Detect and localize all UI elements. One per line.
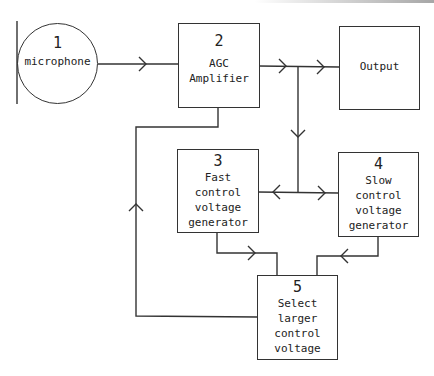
wire-branch-horizontal <box>258 192 338 193</box>
node-label: voltage <box>258 341 337 356</box>
node-microphone: 1 microphone <box>17 23 98 104</box>
node-label: Slow <box>339 173 418 188</box>
node-label: Output <box>340 59 419 74</box>
node-output: Output <box>339 26 420 110</box>
node-fast-control-voltage-generator: 3 Fast control voltage generator <box>177 149 259 233</box>
node-label: generator <box>178 215 258 230</box>
node-label: generator <box>339 218 418 233</box>
node-number: 1 <box>18 34 97 52</box>
node-label: larger <box>258 311 337 326</box>
node-label: Amplifier <box>179 71 259 86</box>
node-label: control <box>178 185 258 200</box>
wire-agc-to-output <box>259 66 339 67</box>
node-label: AGC <box>179 56 259 71</box>
node-agc-amplifier: 2 AGC Amplifier <box>178 23 260 108</box>
node-number: 2 <box>179 32 259 50</box>
node-number: 5 <box>258 278 337 296</box>
node-label: Fast <box>178 170 258 185</box>
node-label: Select <box>258 296 337 311</box>
node-number: 3 <box>178 152 258 170</box>
wire-slow-to-select <box>317 236 378 275</box>
node-label: voltage <box>339 203 418 218</box>
node-label: voltage <box>178 200 258 215</box>
node-slow-control-voltage-generator: 4 Slow control voltage generator <box>338 152 419 237</box>
node-label: control <box>339 188 418 203</box>
node-label: microphone <box>18 54 97 69</box>
wire-fast-to-select <box>217 232 277 275</box>
scan-artifact <box>254 0 434 3</box>
node-label: control <box>258 326 337 341</box>
node-select-larger-control-voltage: 5 Select larger control voltage <box>257 275 338 360</box>
node-number: 4 <box>339 155 418 173</box>
